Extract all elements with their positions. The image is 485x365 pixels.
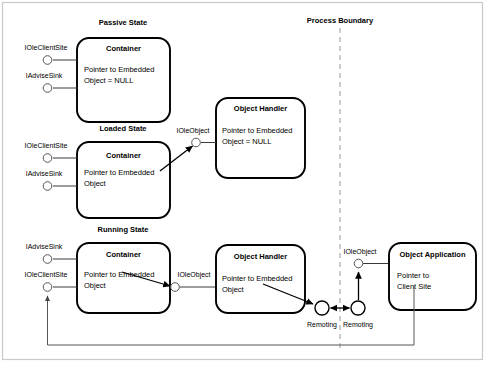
box-passive-object-handler-body-line1: Pointer to Embedded bbox=[222, 126, 292, 135]
box-passive-object-handler-title: Object Handler bbox=[234, 104, 287, 113]
label-passive-iadvisesink: IAdviseSink bbox=[26, 72, 63, 79]
ioleclientsite-icon[interactable] bbox=[43, 283, 52, 292]
state-heading-loaded: Loaded State bbox=[99, 124, 146, 133]
ole-states-diagram: Process Boundary Passive State Container… bbox=[0, 0, 485, 365]
label-running-iadvisesink: IAdviseSink bbox=[26, 243, 63, 250]
box-loaded-container-body-line2: Object bbox=[84, 179, 107, 188]
remoting-right-node[interactable] bbox=[351, 301, 365, 315]
box-running-container-body-line1: Pointer to Embedded bbox=[84, 270, 154, 279]
state-heading-passive: Passive State bbox=[99, 18, 147, 27]
process-boundary-label: Process Boundary bbox=[307, 16, 374, 25]
box-passive-object-handler-body-line2: Object = NULL bbox=[222, 137, 271, 146]
box-loaded-container-body-line1: Pointer to Embedded bbox=[84, 168, 154, 177]
label-loaded-iadvisesink: IAdviseSink bbox=[26, 170, 63, 177]
remoting-left-label: Remoting bbox=[307, 321, 337, 329]
ioleobject-icon[interactable] bbox=[171, 283, 180, 292]
iadvisesink-icon[interactable] bbox=[43, 182, 52, 191]
box-running-object-handler-body-line2: Object bbox=[222, 285, 245, 294]
label-loaded-ioleobject: IOleObject bbox=[176, 127, 209, 135]
label-running-ioleclientsite: IOleClientSite bbox=[25, 271, 68, 278]
box-passive-container-body-line2: Object = NULL bbox=[84, 76, 133, 85]
box-running-object-handler-title: Object Handler bbox=[234, 252, 287, 261]
ioleobject-icon[interactable] bbox=[354, 259, 363, 268]
ioleclientsite-icon[interactable] bbox=[43, 56, 52, 65]
box-object-application-body-line1: Pointer to bbox=[397, 271, 429, 280]
box-running-object-handler-body-line1: Pointer to Embedded bbox=[222, 274, 292, 283]
remoting-right-label: Remoting bbox=[343, 321, 373, 329]
label-passive-ioleclientsite: IOleClientSite bbox=[25, 44, 68, 51]
ioleclientsite-icon[interactable] bbox=[43, 154, 52, 163]
iadvisesink-icon[interactable] bbox=[43, 84, 52, 93]
ioleobject-icon[interactable] bbox=[192, 138, 201, 147]
box-passive-container-body-line1: Pointer to Embedded bbox=[84, 65, 154, 74]
box-loaded-container-title: Container bbox=[106, 151, 141, 160]
state-heading-running: Running State bbox=[98, 225, 149, 234]
iadvisesink-icon[interactable] bbox=[43, 255, 52, 264]
label-loaded-ioleclientsite: IOleClientSite bbox=[25, 142, 68, 149]
box-object-application-title: Object Application bbox=[400, 250, 466, 259]
label-app-ioleobject: IOleObject bbox=[343, 248, 376, 256]
box-running-container-title: Container bbox=[106, 250, 141, 259]
box-running-container-body-line2: Object bbox=[84, 281, 107, 290]
label-running-ioleobject: IOleObject bbox=[177, 271, 210, 279]
remoting-left-node[interactable] bbox=[315, 301, 329, 315]
diagram-canvas: Process Boundary Passive State Container… bbox=[0, 0, 485, 365]
box-passive-container-title: Container bbox=[106, 44, 141, 53]
